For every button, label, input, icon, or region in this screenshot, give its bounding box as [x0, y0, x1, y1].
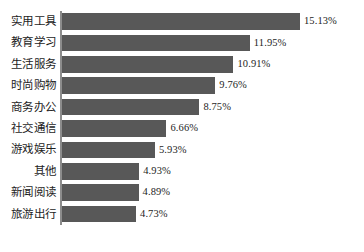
- bar-value-label: 6.66%: [170, 120, 198, 137]
- bar-value-label: 10.91%: [237, 56, 270, 73]
- bar-row: 教育学习11.95%: [0, 32, 364, 53]
- category-label: 其他: [0, 161, 56, 182]
- bar: [62, 56, 234, 73]
- figure-caption: [0, 243, 364, 252]
- bar-row: 时尚购物9.76%: [0, 75, 364, 96]
- bar: [62, 35, 250, 52]
- bar-row: 其他4.93%: [0, 161, 364, 182]
- bar-track: 4.73%: [62, 206, 364, 223]
- category-label: 商务办公: [0, 97, 56, 118]
- bar: [62, 206, 137, 223]
- bar-row: 商务办公8.75%: [0, 97, 364, 118]
- bar-value-label: 9.76%: [219, 77, 247, 94]
- category-label: 时尚购物: [0, 75, 56, 96]
- bar-value-label: 5.93%: [159, 142, 187, 159]
- category-label: 社交通信: [0, 118, 56, 139]
- bar-row: 旅游出行4.73%: [0, 204, 364, 225]
- bar-value-label: 11.95%: [254, 35, 287, 52]
- bar-series-container: 实用工具15.13%教育学习11.95%生活服务10.91%时尚购物9.76%商…: [0, 11, 364, 225]
- bar-track: 4.93%: [62, 163, 364, 180]
- bar-chart-figure: 实用工具15.13%教育学习11.95%生活服务10.91%时尚购物9.76%商…: [0, 0, 364, 252]
- category-label: 游戏娱乐: [0, 139, 56, 160]
- bar-value-label: 4.93%: [143, 163, 171, 180]
- bar: [62, 13, 301, 30]
- bar-track: 10.91%: [62, 56, 364, 73]
- bar-track: 9.76%: [62, 77, 364, 94]
- bar-value-label: 15.13%: [304, 13, 337, 30]
- category-label: 教育学习: [0, 32, 56, 53]
- category-label: 旅游出行: [0, 204, 56, 225]
- bar: [62, 184, 139, 201]
- bar-track: 4.89%: [62, 184, 364, 201]
- bar-track: 11.95%: [62, 35, 364, 52]
- bar: [62, 99, 200, 116]
- bar-track: 15.13%: [62, 13, 364, 30]
- bar-row: 新闻阅读4.89%: [0, 182, 364, 203]
- bar-row: 生活服务10.91%: [0, 54, 364, 75]
- bar-track: 5.93%: [62, 142, 364, 159]
- bar: [62, 77, 216, 94]
- bar-row: 实用工具15.13%: [0, 11, 364, 32]
- bar-value-label: 4.73%: [140, 206, 168, 223]
- bar-track: 8.75%: [62, 99, 364, 116]
- plot-area: 实用工具15.13%教育学习11.95%生活服务10.91%时尚购物9.76%商…: [0, 0, 364, 232]
- bar: [62, 142, 155, 159]
- bar-row: 社交通信6.66%: [0, 118, 364, 139]
- bar: [62, 163, 140, 180]
- bar-value-label: 8.75%: [203, 99, 231, 116]
- category-label: 新闻阅读: [0, 182, 56, 203]
- bar: [62, 120, 167, 137]
- bar-row: 游戏娱乐5.93%: [0, 139, 364, 160]
- category-label: 生活服务: [0, 54, 56, 75]
- bar-track: 6.66%: [62, 120, 364, 137]
- category-label: 实用工具: [0, 11, 56, 32]
- bar-value-label: 4.89%: [143, 184, 171, 201]
